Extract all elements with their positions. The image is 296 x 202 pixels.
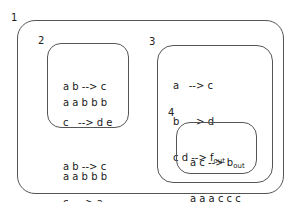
membrane-2-multiset: a a b b b: [63, 97, 107, 109]
membrane-3-label: 3: [149, 36, 155, 47]
rule: c --> ain3: [63, 197, 114, 202]
membrane-1-rules: a b --> c c --> ain3: [63, 137, 114, 202]
rule: c --> d e: [63, 117, 113, 129]
multiset: a a a c c c: [190, 193, 245, 202]
membrane-1-label: 1: [11, 12, 17, 23]
rule: a c --> bout: [190, 157, 245, 169]
membrane-2-label: 2: [38, 35, 44, 46]
rule: a b --> c: [63, 81, 113, 93]
membrane-1-multiset: a a b b b: [63, 171, 107, 183]
rule: a --> c: [173, 80, 225, 92]
membrane-4-label: 4: [168, 107, 174, 118]
membrane-4-rules: a c --> bout a a a c c c: [190, 133, 245, 202]
